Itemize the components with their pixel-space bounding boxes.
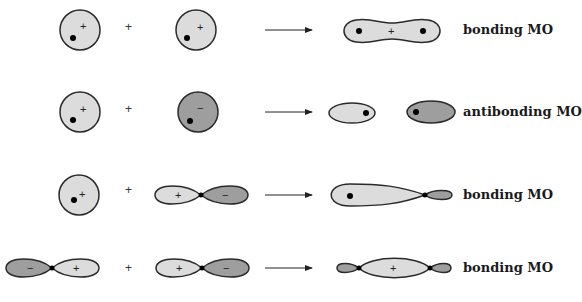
nucleus-dot [428,266,433,271]
positive-sign: + [73,262,79,274]
result-label-row-3: bonding MO [463,187,553,203]
nucleus-dot [423,193,428,198]
p-orbital-right: + − [156,259,249,277]
result-label-row-1: bonding MO [463,22,553,38]
nucleus-dot [71,197,77,203]
positive-sign: + [79,188,85,200]
row-3: + + + − [59,175,452,215]
row-2: + + − [60,92,455,132]
negative-sign: − [197,102,203,114]
s-orbital-positive-right: + [176,10,216,50]
negative-sign: − [27,262,33,274]
plus-operator: + [125,102,132,116]
result-label-row-2: antibonding MO [463,104,582,120]
antibonding-mo-shape [329,101,455,123]
row-4: − + + + − + [6,258,451,278]
nucleus-dot [200,266,205,271]
nucleus-dot [70,117,76,123]
positive-sign: + [388,25,394,37]
bonding-mo-shape: + [337,258,451,278]
positive-sign: + [176,262,182,274]
nucleus-dot [363,110,369,116]
nucleus-dot [70,35,76,41]
nucleus-dot [184,35,190,41]
nucleus-dot [347,193,353,199]
s-orbital-negative: − [178,92,218,132]
nucleus-dot [357,266,362,271]
nucleus-dot [187,118,193,124]
nucleus-dot [420,28,426,34]
row-1: + + + + [60,10,440,50]
bonding-mo-shape [331,184,452,206]
nucleus-dot [356,28,362,34]
nucleus-dot [413,109,419,115]
positive-sign: + [175,189,181,201]
positive-sign: + [197,21,203,33]
plus-operator: + [125,20,132,34]
s-orbital-positive-left: + [60,10,100,50]
bonding-mo-shape: + [344,20,440,43]
positive-sign: + [390,262,396,274]
negative-sign: − [222,189,228,201]
s-orbital-positive: + [60,92,100,132]
p-orbital: + − [155,186,248,204]
s-orbital-positive: + [59,175,99,215]
nucleus-dot [50,266,55,271]
positive-sign: + [80,103,86,115]
plus-operator: + [125,261,132,275]
p-orbital-left: − + [6,259,99,277]
plus-operator: + [125,183,132,197]
result-label-row-4: bonding MO [463,260,553,276]
nucleus-dot [199,193,204,198]
negative-sign: − [223,262,229,274]
positive-sign: + [80,20,86,32]
